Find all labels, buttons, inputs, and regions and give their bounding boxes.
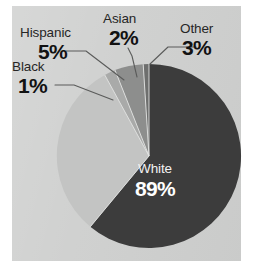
callout-hispanic-category: Hispanic [20,26,71,40]
callout-white-category: White [116,162,194,176]
callout-hispanic: Hispanic 5% [20,26,71,62]
callout-white: White 89% [116,162,194,199]
callout-asian-category: Asian [103,12,138,26]
callout-asian: Asian 2% [103,12,138,48]
callout-asian-percent: 2% [109,27,138,48]
callout-other-percent: 3% [182,37,213,58]
callout-white-percent: 89% [116,178,194,199]
page-root: Hispanic 5% Black 1% Asian 2% Other 3% W… [0,0,253,268]
callout-other-category: Other [180,22,213,36]
callout-black-percent: 1% [18,75,47,96]
callout-other: Other 3% [180,22,213,58]
callout-black-category: Black [12,60,47,74]
callout-black: Black 1% [12,60,47,96]
